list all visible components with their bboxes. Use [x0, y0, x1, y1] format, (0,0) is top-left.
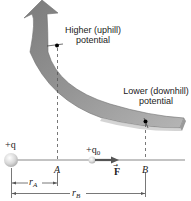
test-charge-subscript: 0 — [97, 149, 101, 157]
point-b-label: B — [142, 165, 148, 175]
source-charge-sphere — [4, 153, 18, 167]
force-vector-mark: → — [113, 161, 118, 168]
test-charge-prefix: +q — [86, 144, 97, 155]
lower-point-dot — [144, 120, 148, 124]
r-b-sub: B — [76, 192, 80, 200]
r-a-label: rA — [29, 177, 37, 190]
lower-label-line2: potential — [121, 96, 191, 106]
potential-diagram: Higher (uphill) potential Lower (downhil… — [0, 0, 191, 201]
higher-label-line2: potential — [58, 35, 128, 45]
point-a-label: A — [54, 165, 60, 175]
higher-label-line1: Higher (uphill) — [58, 25, 128, 35]
force-label: F — [114, 167, 120, 177]
lower-potential-label: Lower (downhill) potential — [121, 86, 191, 106]
r-a-sub: A — [33, 181, 37, 189]
potential-curve-arrow — [24, 0, 186, 131]
source-charge-label: +q — [5, 140, 16, 150]
lower-label-line1: Lower (downhill) — [121, 86, 191, 96]
r-b-label: rB — [72, 188, 80, 201]
test-charge-label: +q0 — [86, 145, 100, 158]
higher-potential-label: Higher (uphill) potential — [58, 25, 128, 45]
